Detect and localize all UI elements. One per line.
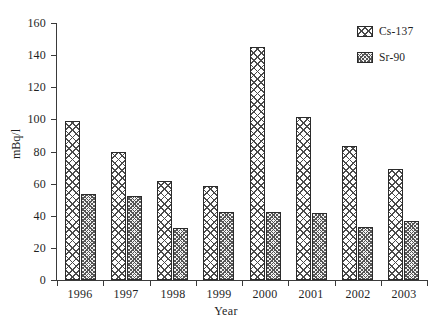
x-tick-label-2003: 2003 <box>374 288 434 301</box>
legend-label-sr90: Sr-90 <box>379 50 405 65</box>
x-tick-mark <box>103 281 104 286</box>
bar-sr-90-2001 <box>312 213 327 280</box>
bar-sr-90-1997 <box>127 196 142 280</box>
y-tick-label: 100 <box>0 113 46 125</box>
y-tick-label: 60 <box>0 178 46 190</box>
bar-cs-137-2001 <box>296 117 311 280</box>
x-tick-mark <box>150 281 151 286</box>
bar-sr-90-1996 <box>81 194 96 280</box>
y-tick-label: 80 <box>0 146 46 158</box>
x-tick-mark <box>381 281 382 286</box>
bar-sr-90-2000 <box>266 212 281 280</box>
y-tick-label: 20 <box>0 242 46 254</box>
x-tick-mark <box>57 281 58 286</box>
x-tick-mark <box>288 281 289 286</box>
y-tick-label: 140 <box>0 49 46 61</box>
x-tick-mark <box>427 281 428 286</box>
y-tick-label: 160 <box>0 17 46 29</box>
bar-sr-90-1999 <box>219 212 234 280</box>
legend: Cs-137 Sr-90 <box>357 24 442 76</box>
y-tick-label: 0 <box>0 274 46 286</box>
bar-cs-137-1999 <box>203 186 218 280</box>
bar-cs-137-2003 <box>388 169 403 280</box>
bar-sr-90-1998 <box>173 228 188 280</box>
x-axis-label: Year <box>186 305 266 317</box>
bar-chart: mBq/l Year 020406080100120140160 1996199… <box>0 0 442 331</box>
bar-sr-90-2003 <box>404 221 419 280</box>
legend-swatch-cs137-icon <box>357 26 373 37</box>
x-tick-mark <box>335 281 336 286</box>
bar-cs-137-2002 <box>342 146 357 280</box>
bar-sr-90-2002 <box>358 227 373 280</box>
legend-label-cs137: Cs-137 <box>379 24 413 39</box>
legend-item-sr90: Sr-90 <box>357 50 442 72</box>
x-tick-mark <box>242 281 243 286</box>
bar-cs-137-2000 <box>250 47 265 280</box>
bar-cs-137-1998 <box>157 181 172 280</box>
legend-swatch-sr90-icon <box>357 52 373 63</box>
bar-cs-137-1997 <box>111 152 126 281</box>
y-tick-label: 120 <box>0 81 46 93</box>
x-tick-mark <box>196 281 197 286</box>
y-tick-label: 40 <box>0 210 46 222</box>
legend-item-cs137: Cs-137 <box>357 24 442 46</box>
bar-cs-137-1996 <box>65 121 80 280</box>
